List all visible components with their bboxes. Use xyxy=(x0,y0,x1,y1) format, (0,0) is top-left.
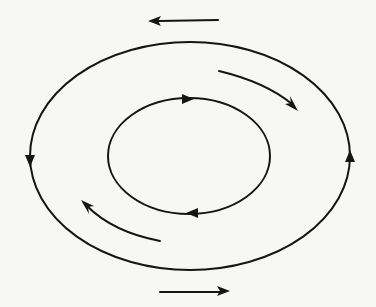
outer-loop-arrowhead-right-up xyxy=(345,150,355,162)
top-flow-arrow xyxy=(158,20,218,21)
lower-left-curved-arrow xyxy=(87,206,160,241)
inner-loop-arrowhead-bottom-left xyxy=(186,208,198,218)
circulation-diagram xyxy=(0,0,376,307)
inner-loop-arrowhead-top-right xyxy=(182,94,194,104)
upper-right-curved-arrowhead xyxy=(285,96,298,111)
inner-loop xyxy=(108,98,270,214)
outer-loop xyxy=(30,42,350,270)
upper-right-curved-arrow xyxy=(219,71,292,104)
outer-loop-arrowhead-left-down xyxy=(25,155,35,167)
